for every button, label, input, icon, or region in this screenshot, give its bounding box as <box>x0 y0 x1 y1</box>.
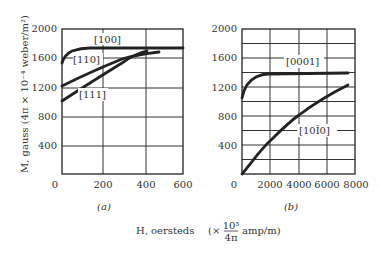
figure: [100] [110] [111] 2000 1600 1200 800 400… <box>0 0 380 255</box>
label-111: [111] <box>79 89 106 100</box>
xtick-b-0: 0 <box>231 179 237 190</box>
ytick-b-800: 800 <box>218 111 237 122</box>
label-1010: [10Ī0] <box>299 125 330 136</box>
ytick-a-1600: 1600 <box>32 52 57 63</box>
x-axis-label-frac-den: 4π <box>225 232 238 243</box>
ytick-b-1200: 1200 <box>212 82 237 93</box>
label-100: [100] <box>94 34 121 45</box>
ytick-b-1600: 1600 <box>212 52 237 63</box>
caption-a: (a) <box>97 201 111 212</box>
label-0001: [0001] <box>286 56 319 67</box>
ytick-a-2000: 2000 <box>32 23 57 34</box>
x-axis-label-frac-num: 10³ <box>223 220 240 231</box>
x-axis-label-prefix: (× <box>208 225 220 236</box>
ytick-a-400: 400 <box>38 140 57 151</box>
xtick-b-4000: 4000 <box>286 179 311 190</box>
ytick-a-1200: 1200 <box>32 82 57 93</box>
panel-b: [0001] [10Ī0] 2000 1600 1200 800 400 0 2… <box>212 23 369 212</box>
x-axis-label-suffix: amp/m) <box>242 225 281 236</box>
xtick-a-0: 0 <box>52 179 58 190</box>
xtick-b-8000: 8000 <box>343 179 368 190</box>
x-axis-label-main: H, oersteds <box>136 225 194 236</box>
panel-a: [100] [110] [111] 2000 1600 1200 800 400… <box>32 23 193 212</box>
xtick-a-400: 400 <box>136 179 155 190</box>
label-110: [110] <box>73 54 100 65</box>
y-axis-label: M, gauss (4π × 10⁻⁴ weber/m²) <box>19 15 30 173</box>
ytick-b-2000: 2000 <box>212 23 237 34</box>
xtick-a-200: 200 <box>93 179 112 190</box>
x-axis-label: H, oersteds (× 10³ 4π amp/m) <box>136 220 281 243</box>
caption-b: (b) <box>284 201 298 212</box>
xtick-b-2000: 2000 <box>257 179 282 190</box>
xtick-a-600: 600 <box>173 179 192 190</box>
plot-frame-a <box>62 29 183 174</box>
xtick-b-6000: 6000 <box>314 179 339 190</box>
ytick-a-800: 800 <box>38 111 57 122</box>
ytick-b-400: 400 <box>218 140 237 151</box>
